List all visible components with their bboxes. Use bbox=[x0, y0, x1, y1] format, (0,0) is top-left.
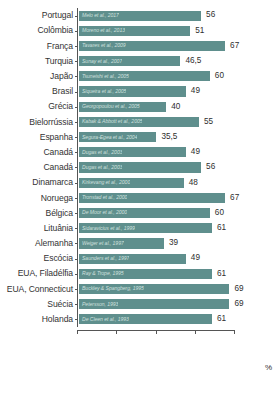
bar-value-label: 61 bbox=[217, 270, 226, 278]
bar: Dugas et al., 2003 bbox=[79, 147, 186, 157]
category-label: Suécia bbox=[0, 300, 77, 309]
bar-citation-label: Buckley & Spangberg, 1995 bbox=[79, 286, 144, 291]
bar: Petersson, 1993 bbox=[79, 299, 229, 309]
y-axis-tick bbox=[75, 167, 78, 168]
category-label: EUA, Filadélfia bbox=[0, 269, 77, 278]
row-plot-area: Moreno et al., 201351 bbox=[77, 23, 278, 38]
bar-group: De Moor et al., 200060 bbox=[79, 205, 224, 220]
row-plot-area: Petersson, 199369 bbox=[77, 297, 278, 312]
chart-rows: PortugalMelo et al., 201756ColômbiaMoren… bbox=[0, 8, 278, 327]
category-label: Portugal bbox=[0, 11, 77, 20]
bar: Sidaravicius et al., 1999 bbox=[79, 223, 212, 233]
bar-citation-label: Georgopoulou et al., 2005 bbox=[79, 104, 140, 109]
bar: Tavares et al., 2009 bbox=[79, 41, 225, 51]
bar-citation-label: Dugas et al., 2003 bbox=[79, 165, 122, 170]
chart-row: DinamarcaKirkevang et al., 200048 bbox=[0, 175, 278, 190]
bar-value-label: 60 bbox=[215, 209, 224, 217]
bar-value-label: 56 bbox=[206, 163, 215, 171]
row-plot-area: De Cleen et al., 199361 bbox=[77, 312, 278, 327]
bar-group: Buckley & Spangberg, 199569 bbox=[79, 281, 244, 296]
y-axis-tick bbox=[75, 137, 78, 138]
bar-citation-label: De Cleen et al., 1993 bbox=[79, 317, 129, 322]
y-axis-tick bbox=[75, 183, 78, 184]
category-label: França bbox=[0, 42, 77, 51]
bar-citation-label: Ray & Trope, 1995 bbox=[79, 271, 124, 276]
bar-group: Melo et al., 201756 bbox=[79, 8, 215, 23]
bar-group: Georgopoulou et al., 200540 bbox=[79, 99, 180, 114]
bar-group: Dugas et al., 200349 bbox=[79, 145, 200, 160]
bar: Siqueira et al., 2005 bbox=[79, 86, 186, 96]
y-axis-tick bbox=[75, 122, 78, 123]
chart-row: SuéciaPetersson, 199369 bbox=[0, 297, 278, 312]
chart-row: PortugalMelo et al., 201756 bbox=[0, 8, 278, 23]
y-axis-tick bbox=[75, 76, 78, 77]
y-axis-tick bbox=[75, 61, 78, 62]
category-label: Bélgica bbox=[0, 209, 77, 218]
y-axis-tick bbox=[75, 289, 78, 290]
bar-value-label: 60 bbox=[215, 72, 224, 80]
category-label: Holanda bbox=[0, 315, 77, 324]
bar-group: Tronstad et al., 200067 bbox=[79, 190, 239, 205]
bar: Dugas et al., 2003 bbox=[79, 162, 201, 172]
x-axis-tick bbox=[77, 330, 78, 334]
x-axis-tick bbox=[234, 330, 235, 334]
row-plot-area: Sidaravicius et al., 199961 bbox=[77, 221, 278, 236]
category-label: Dinamarca bbox=[0, 178, 77, 187]
bar: Georgopoulou et al., 2005 bbox=[79, 102, 166, 112]
category-label: Canadá bbox=[0, 163, 77, 172]
row-plot-area: Tsuneishi et al., 200560 bbox=[77, 69, 278, 84]
bar-value-label: 40 bbox=[171, 103, 180, 111]
bar: Kabak & Abbott et al., 2005 bbox=[79, 117, 199, 127]
bar-value-label: 67 bbox=[230, 194, 239, 202]
y-axis-tick bbox=[75, 152, 78, 153]
bar-value-label: 56 bbox=[206, 11, 215, 19]
chart-row: CanadáDugas et al., 200356 bbox=[0, 160, 278, 175]
bar: Kirkevang et al., 2000 bbox=[79, 178, 184, 188]
bar: Moreno et al., 2013 bbox=[79, 26, 190, 36]
category-label: Alemanha bbox=[0, 239, 77, 248]
bar-value-label: 49 bbox=[191, 87, 200, 95]
category-label: Escócia bbox=[0, 254, 77, 263]
bar-group: Moreno et al., 201351 bbox=[79, 23, 204, 38]
bar-citation-label: Tavares et al., 2009 bbox=[79, 43, 126, 48]
bar-group: Kabak & Abbott et al., 200555 bbox=[79, 114, 213, 129]
bar: Weiger et al., 1997 bbox=[79, 238, 164, 248]
x-axis bbox=[77, 330, 278, 340]
bar: Tronstad et al., 2000 bbox=[79, 193, 225, 203]
bar-group: Weiger et al., 199739 bbox=[79, 236, 178, 251]
chart-row: BélgicaDe Moor et al., 200060 bbox=[0, 205, 278, 220]
row-plot-area: Sunay et al., 200746,5 bbox=[77, 54, 278, 69]
row-plot-area: Ray & Trope, 199561 bbox=[77, 266, 278, 281]
bar-citation-label: Sunay et al., 2007 bbox=[79, 59, 122, 64]
bar-group: Sidaravicius et al., 199961 bbox=[79, 221, 226, 236]
row-plot-area: Dugas et al., 200356 bbox=[77, 160, 278, 175]
category-label: Grécia bbox=[0, 102, 77, 111]
bar-value-label: 67 bbox=[230, 42, 239, 50]
y-axis-tick bbox=[75, 92, 78, 93]
x-axis-tick bbox=[156, 330, 157, 334]
row-plot-area: Tavares et al., 200967 bbox=[77, 38, 278, 53]
bar: De Moor et al., 2000 bbox=[79, 208, 210, 218]
y-axis-tick bbox=[75, 213, 78, 214]
bar-citation-label: Segura-Egea et al., 2004 bbox=[79, 135, 137, 140]
bar-group: Segura-Egea et al., 200435,5 bbox=[79, 130, 177, 145]
row-plot-area: Weiger et al., 199739 bbox=[77, 236, 278, 251]
bar: Saunders et al., 1997 bbox=[79, 254, 186, 264]
bar-citation-label: Saunders et al., 1997 bbox=[79, 256, 129, 261]
y-axis-tick bbox=[75, 259, 78, 260]
chart-row: JapãoTsuneishi et al., 200560 bbox=[0, 69, 278, 84]
bar-value-label: 35,5 bbox=[161, 133, 177, 141]
category-label: Bielorrússia bbox=[0, 118, 77, 127]
bar-chart: PortugalMelo et al., 201756ColômbiaMoren… bbox=[0, 0, 278, 397]
bar: Melo et al., 2017 bbox=[79, 11, 201, 21]
bar-group: Ray & Trope, 199561 bbox=[79, 266, 226, 281]
bar-citation-label: Petersson, 1993 bbox=[79, 302, 118, 307]
bar-value-label: 55 bbox=[204, 118, 213, 126]
category-label: Canadá bbox=[0, 148, 77, 157]
y-axis-tick bbox=[75, 274, 78, 275]
bar-citation-label: Siqueira et al., 2005 bbox=[79, 89, 126, 94]
bar-group: Saunders et al., 199749 bbox=[79, 251, 200, 266]
bar-value-label: 49 bbox=[191, 148, 200, 156]
y-axis-tick bbox=[75, 198, 78, 199]
category-label: Japão bbox=[0, 72, 77, 81]
